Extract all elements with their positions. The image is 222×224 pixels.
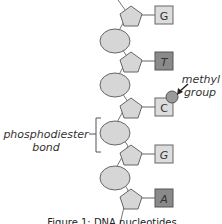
sugar-pentagon xyxy=(120,52,142,72)
nucleotide-5: A xyxy=(120,189,173,209)
sugar-pentagon xyxy=(120,145,142,165)
bond-label-line2: bond xyxy=(32,141,61,154)
nucleotide-4: G xyxy=(120,145,173,165)
sugar-pentagon xyxy=(120,98,142,118)
dna-diagram: G T C methyl group G A phosphodiester bo… xyxy=(0,0,222,224)
phosphate-ellipse-2 xyxy=(100,73,130,97)
figure-caption: Figure 1: DNA nucleotides xyxy=(47,217,176,224)
bond-label-line1: phosphodiester xyxy=(2,128,90,141)
sugar-pentagon xyxy=(120,189,142,209)
base-letter: A xyxy=(159,193,168,206)
phosphate-ellipse-1 xyxy=(100,29,130,53)
methyl-label-line2: group xyxy=(184,86,216,99)
base-letter: C xyxy=(160,102,168,115)
methyl-group-circle xyxy=(166,91,178,103)
phosphate-ellipse-3 xyxy=(100,121,130,145)
methyl-label-line1: methyl xyxy=(182,73,220,86)
sugar-pentagon xyxy=(120,6,142,26)
phosphate-ellipse-4 xyxy=(100,166,130,190)
nucleotide-2: T xyxy=(120,52,173,72)
base-letter: G xyxy=(160,10,169,23)
nucleotide-3: C xyxy=(120,91,178,118)
nucleotide-1: G xyxy=(120,6,173,26)
base-letter: G xyxy=(160,149,169,162)
